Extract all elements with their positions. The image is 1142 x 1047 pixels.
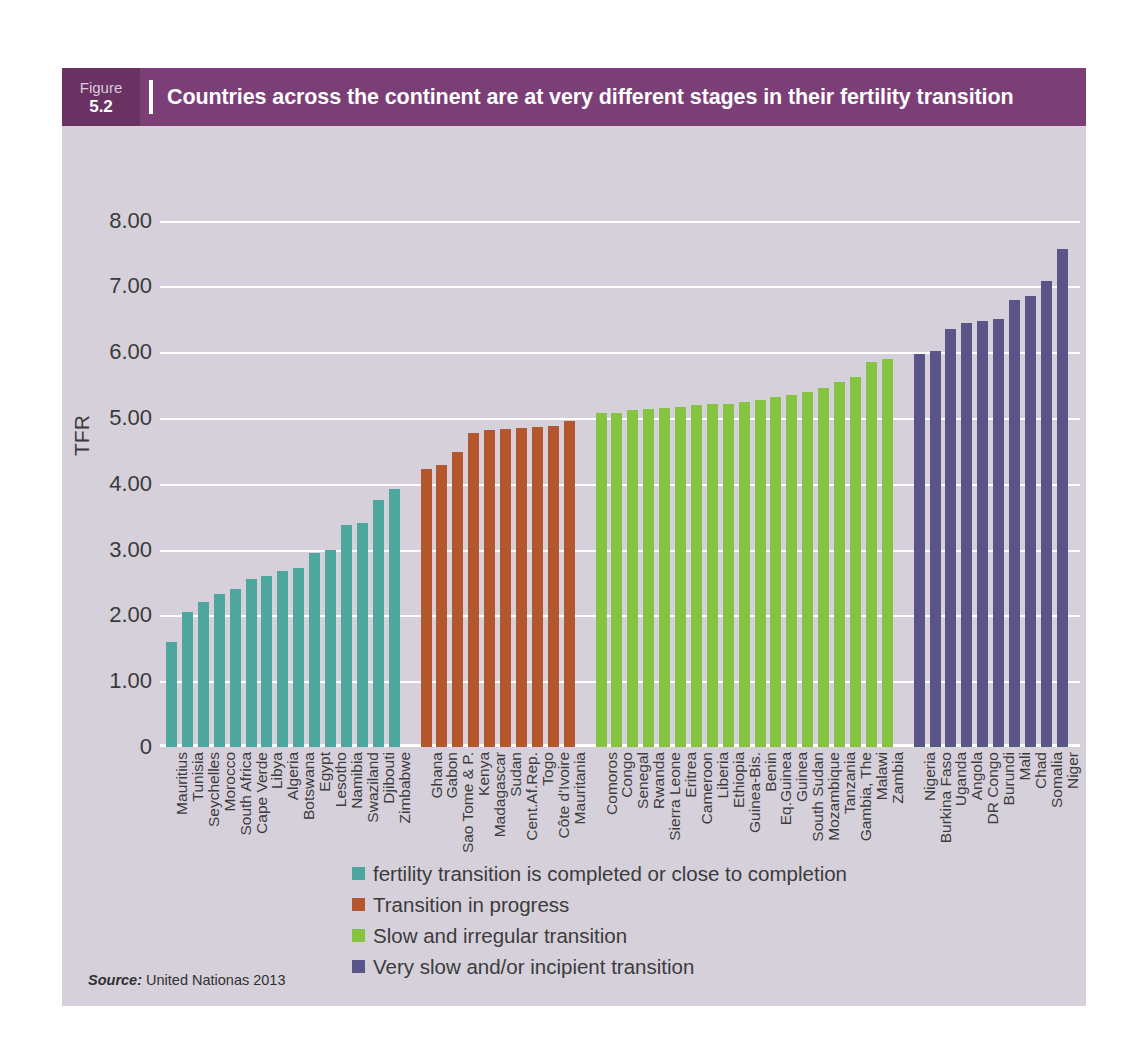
x-tick-label: Seychelles — [208, 752, 219, 827]
legend-item[interactable]: fertility transition is completed or clo… — [352, 858, 992, 889]
x-tick-label: Rwanda — [653, 752, 664, 809]
bar — [1009, 300, 1020, 747]
x-tick-label: Burkina Faso — [940, 752, 951, 843]
bar — [914, 354, 925, 747]
x-tick-label: Eq.Guinea — [780, 752, 791, 825]
x-tick-label: Burundi — [1003, 752, 1014, 805]
bar — [277, 571, 288, 747]
bar — [500, 429, 511, 747]
x-tick-label: Malawi — [876, 752, 887, 800]
source-label: Source: — [88, 972, 142, 988]
x-tick-label: Eritrea — [685, 752, 696, 798]
x-tick-label: Liberia — [717, 752, 728, 799]
figure-title: Countries across the continent are at ve… — [167, 68, 1086, 126]
bar — [675, 407, 686, 747]
x-tick-label: Sao Tome & P. — [462, 752, 473, 853]
x-tick-label: Mali — [1019, 752, 1030, 780]
x-tick-label: Djibouti — [383, 752, 394, 804]
x-tick-label: Libya — [271, 752, 282, 789]
bar — [532, 427, 543, 747]
y-tick-label: 2.00 — [78, 602, 152, 628]
x-tick-label: Swaziland — [367, 752, 378, 823]
x-tick-label: Mauritius — [176, 752, 187, 815]
x-tick-label: Cent.Af.Rep. — [526, 752, 537, 841]
x-tick-label: Sudan — [510, 752, 521, 797]
bar — [1057, 249, 1068, 747]
bar — [357, 523, 368, 747]
bar — [707, 404, 718, 747]
x-tick-label: South Africa — [240, 752, 251, 836]
figure-title-bar: Figure 5.2 Countries across the continen… — [62, 68, 1086, 126]
legend-label: Very slow and/or incipient transition — [373, 955, 694, 979]
bar — [611, 413, 622, 747]
bar — [755, 400, 766, 747]
legend-swatch-icon — [352, 867, 365, 880]
figure-number-tag: Figure 5.2 — [62, 68, 140, 126]
x-tick-label: Mauritania — [574, 752, 585, 824]
bar — [246, 579, 257, 747]
bar — [643, 409, 654, 747]
bar — [739, 402, 750, 747]
bar — [214, 594, 225, 747]
bar — [436, 465, 447, 747]
x-tick-label: Cameroon — [701, 752, 712, 824]
bar — [596, 413, 607, 747]
chart-legend: fertility transition is completed or clo… — [352, 858, 992, 982]
x-tick-label: Ghana — [431, 752, 442, 799]
bar — [882, 359, 893, 747]
y-tick-label: 7.00 — [78, 273, 152, 299]
x-tick-label: Morocco — [224, 752, 235, 811]
bar — [1041, 281, 1052, 747]
legend-swatch-icon — [352, 898, 365, 911]
x-tick-label: Gabon — [446, 752, 457, 799]
x-tick-label: Senegal — [637, 752, 648, 809]
x-tick-label: Zambia — [892, 752, 903, 804]
bar — [834, 382, 845, 747]
source-note: Source: United Nationas 2013 — [88, 972, 286, 988]
figure-card: Figure 5.2 Countries across the continen… — [62, 68, 1086, 1006]
x-tick-label: Nigeria — [924, 752, 935, 801]
x-tick-label: Zimbabwe — [399, 752, 410, 824]
bar — [198, 602, 209, 747]
x-tick-label: Algeria — [287, 752, 298, 800]
bar — [977, 321, 988, 747]
legend-item[interactable]: Slow and irregular transition — [352, 920, 992, 951]
bar — [786, 395, 797, 747]
x-tick-label: Tanzania — [844, 752, 855, 814]
title-divider — [149, 80, 153, 114]
legend-item[interactable]: Transition in progress — [352, 889, 992, 920]
y-tick-label: 3.00 — [78, 537, 152, 563]
bar — [1025, 296, 1036, 747]
source-text: United Nationas 2013 — [146, 972, 285, 988]
bar — [468, 433, 479, 747]
bar — [945, 329, 956, 747]
x-tick-label: Namibia — [351, 752, 362, 809]
legend-item[interactable]: Very slow and/or incipient transition — [352, 951, 992, 982]
x-tick-label: Benin — [765, 752, 776, 792]
figure-word: Figure — [80, 80, 123, 96]
x-tick-label: Chad — [1035, 752, 1046, 789]
bar — [627, 410, 638, 747]
x-tick-label: Cape Verde — [256, 752, 267, 834]
x-tick-label: Guinea — [796, 752, 807, 802]
x-tick-label: Ethiopia — [733, 752, 744, 808]
bar — [993, 319, 1004, 747]
bar — [930, 351, 941, 747]
legend-swatch-icon — [352, 960, 365, 973]
figure-number: 5.2 — [89, 98, 113, 116]
x-tick-label: Sierra Leone — [669, 752, 680, 841]
x-tick-label: Gambia, The — [860, 752, 871, 841]
x-tick-label: Lesotho — [335, 752, 346, 807]
bar — [802, 392, 813, 747]
bar — [373, 500, 384, 747]
x-tick-label: Congo — [621, 752, 632, 798]
x-tick-label: Niger — [1067, 752, 1078, 789]
bar — [261, 576, 272, 747]
legend-label: Slow and irregular transition — [373, 924, 627, 948]
x-tick-label: Angola — [971, 752, 982, 800]
x-tick-label: Botswana — [303, 752, 314, 820]
bar — [452, 452, 463, 747]
x-tick-label: Mozambique — [828, 752, 839, 841]
x-tick-label: Egypt — [319, 752, 330, 792]
legend-label: fertility transition is completed or clo… — [373, 862, 847, 886]
